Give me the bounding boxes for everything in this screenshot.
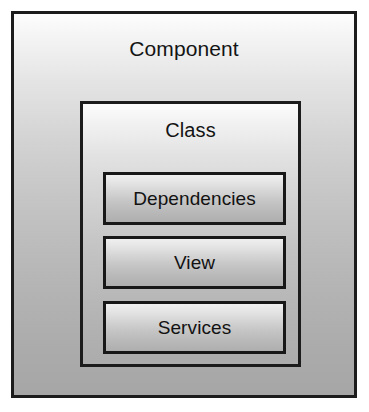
diagram-canvas: Component Class Dependencies View Servic… <box>0 0 369 412</box>
component-box: Component Class Dependencies View Servic… <box>11 11 357 398</box>
dependencies-label: Dependencies <box>133 187 256 210</box>
dependencies-box: Dependencies <box>103 172 286 225</box>
view-box: View <box>103 236 286 289</box>
class-box: Class Dependencies View Services <box>80 101 301 367</box>
class-label: Class <box>83 118 298 143</box>
view-label: View <box>174 251 215 274</box>
services-box: Services <box>103 301 286 354</box>
component-label: Component <box>14 36 354 62</box>
services-label: Services <box>158 316 232 339</box>
